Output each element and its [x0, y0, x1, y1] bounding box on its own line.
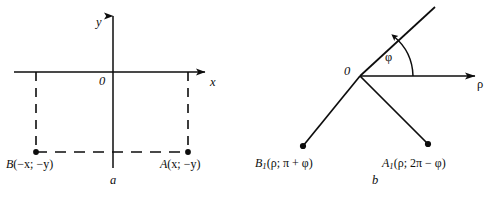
point-marker-a1	[425, 141, 431, 147]
point-marker-b	[33, 149, 39, 155]
point-label-a-coords: (x; −y)	[167, 157, 200, 171]
figure-container: y x 0 B(−x; −y) A(x; −y) a	[0, 0, 494, 197]
caption-a: a	[110, 174, 116, 187]
point-label-b: B(−x; −y)	[6, 158, 53, 170]
point-label-a1-coords: (ρ; 2π − φ)	[394, 156, 446, 170]
point-label-a1: A1(ρ; 2π − φ)	[382, 157, 446, 171]
rho-axis-label: ρ	[477, 78, 483, 91]
origin-label-b: 0	[344, 65, 350, 78]
point-marker-b1	[300, 143, 306, 149]
y-axis-label: y	[96, 16, 102, 29]
caption-b: b	[372, 174, 378, 187]
diagram-panel-b: 0 ρ φ B1(ρ; π + φ) A1(ρ; 2π − φ) b	[247, 0, 494, 197]
x-axis-label: x	[210, 76, 216, 89]
point-label-b1: B1(ρ; π + φ)	[255, 157, 313, 171]
diagram-panel-a: y x 0 B(−x; −y) A(x; −y) a	[0, 0, 247, 197]
ray-to-a1	[360, 76, 428, 144]
point-label-a: A(x; −y)	[160, 158, 200, 170]
ray-to-b1	[303, 76, 360, 146]
origin-label-a: 0	[99, 75, 105, 88]
point-label-b-coords: (−x; −y)	[13, 157, 53, 171]
angle-label-phi: φ	[385, 51, 392, 64]
point-marker-a	[185, 149, 191, 155]
terminal-ray-upper	[360, 7, 435, 76]
point-label-b1-coords: (ρ; π + φ)	[267, 156, 313, 170]
